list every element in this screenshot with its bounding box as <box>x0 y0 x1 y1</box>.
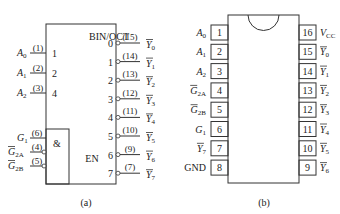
inversion-bubble <box>116 78 120 82</box>
pin-10-label: Y5 <box>320 143 330 156</box>
pin-number: 14 <box>303 66 313 77</box>
svg-text:Y3: Y3 <box>146 95 156 108</box>
output-Y2: Y2 <box>146 76 156 89</box>
pin-number: (3) <box>33 83 44 93</box>
pin-number: (13) <box>123 69 138 79</box>
pin-number: (11) <box>123 106 138 116</box>
enable-G2B: G2B <box>8 160 24 173</box>
svg-text:Y5: Y5 <box>146 132 156 145</box>
svg-text:Y1: Y1 <box>146 58 156 71</box>
output-index: 4 <box>108 112 113 123</box>
svg-text:Y5: Y5 <box>320 143 330 156</box>
inversion-bubble <box>116 153 120 157</box>
notch-icon <box>248 15 279 31</box>
output-Y0: Y0 <box>146 39 156 52</box>
output-index: 7 <box>108 168 113 179</box>
pin-number: 11 <box>303 124 313 135</box>
pin-8-label: GND <box>184 162 206 173</box>
pin-number: 3 <box>217 66 222 77</box>
pin-number: (5) <box>32 156 43 166</box>
output-Y1: Y1 <box>146 58 156 71</box>
svg-text:Y2: Y2 <box>146 76 156 89</box>
pin-number: 1 <box>217 27 222 38</box>
pin-number: 16 <box>303 27 313 38</box>
pin-2-label: A1 <box>195 46 206 59</box>
inversion-bubble <box>42 150 46 154</box>
svg-text:Y3: Y3 <box>320 104 330 117</box>
pin-number: 13 <box>303 85 313 96</box>
svg-text:G1: G1 <box>17 132 28 145</box>
input-A2: A2 <box>16 87 27 100</box>
svg-text:G2A: G2A <box>190 85 206 98</box>
svg-text:Y0: Y0 <box>146 39 156 52</box>
pin-number: 2 <box>217 46 222 57</box>
svg-text:A2: A2 <box>195 66 206 79</box>
input-weight: 4 <box>52 88 57 99</box>
svg-text:G1: G1 <box>195 124 206 137</box>
output-Y6: Y6 <box>146 151 156 164</box>
pin-12-label: Y3 <box>320 104 330 117</box>
output-index: 5 <box>108 131 113 142</box>
svg-text:G2B: G2B <box>191 104 207 117</box>
and-label: & <box>53 138 61 149</box>
svg-text:Y6: Y6 <box>320 162 330 175</box>
output-index: 1 <box>108 57 113 68</box>
svg-text:Y2: Y2 <box>320 85 330 98</box>
pin-15-label: Y0 <box>320 46 330 59</box>
svg-text:Y7: Y7 <box>146 169 156 182</box>
inversion-bubble <box>116 134 120 138</box>
svg-text:Y0: Y0 <box>320 46 330 59</box>
output-index: 2 <box>108 75 113 86</box>
pin-number: 10 <box>303 143 313 154</box>
pin-number: (7) <box>125 162 136 172</box>
output-Y4: Y4 <box>146 113 156 126</box>
pin-number: (4) <box>32 142 43 152</box>
svg-text:A1: A1 <box>195 46 206 59</box>
output-Y3: Y3 <box>146 95 156 108</box>
pin-number: (14) <box>123 51 138 61</box>
inversion-bubble <box>116 97 120 101</box>
svg-text:VCC: VCC <box>320 27 336 40</box>
svg-text:Y6: Y6 <box>146 151 156 164</box>
svg-text:Y7: Y7 <box>197 143 207 156</box>
svg-text:Y4: Y4 <box>146 113 156 126</box>
ic-package <box>228 15 299 183</box>
inversion-bubble <box>116 60 120 64</box>
pin-13-label: Y2 <box>320 85 330 98</box>
pin-number: 7 <box>217 143 222 154</box>
input-weight: 2 <box>52 68 57 79</box>
pin-4-label: G2A <box>190 85 206 98</box>
svg-text:Y4: Y4 <box>320 124 330 137</box>
pin-number: (15) <box>123 32 138 42</box>
svg-text:G2A: G2A <box>8 146 24 159</box>
svg-text:A0: A0 <box>195 27 206 40</box>
pin-number: (1) <box>33 43 44 53</box>
svg-text:Y1: Y1 <box>320 66 330 79</box>
output-index: 3 <box>108 94 113 105</box>
enable-G2A: G2A <box>8 146 24 159</box>
output-index: 6 <box>108 150 113 161</box>
pin-3-label: A2 <box>195 66 206 79</box>
en-label: EN <box>85 153 98 164</box>
decoder-diagrams: BIN/OCTA0(1)1A1(2)2A2(3)4&ENG1(6)G2A(4)G… <box>0 0 340 214</box>
svg-text:A0: A0 <box>16 47 27 60</box>
caption-a: (a) <box>80 197 91 209</box>
pin-1-label: A0 <box>195 27 206 40</box>
pin-number: 5 <box>217 104 222 115</box>
pin-number: 8 <box>217 162 222 173</box>
pin-number: 4 <box>217 85 222 96</box>
output-Y7: Y7 <box>146 169 156 182</box>
pin-number: (10) <box>123 125 138 135</box>
input-A0: A0 <box>16 47 27 60</box>
input-weight: 1 <box>52 48 57 59</box>
svg-text:A2: A2 <box>16 87 27 100</box>
pin-number: (6) <box>32 128 43 138</box>
pin-number: (2) <box>33 63 44 73</box>
inversion-bubble <box>116 115 120 119</box>
pin-number: 9 <box>305 162 310 173</box>
input-A1: A1 <box>16 67 27 80</box>
pin-11-label: Y4 <box>320 124 330 137</box>
output-Y5: Y5 <box>146 132 156 145</box>
svg-text:A1: A1 <box>16 67 27 80</box>
caption-b: (b) <box>258 197 270 209</box>
